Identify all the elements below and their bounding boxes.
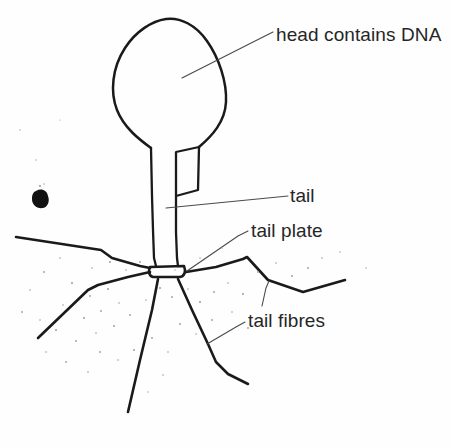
leader-lines: [166, 32, 288, 344]
leader-line-tail-fibres: [207, 322, 245, 344]
label-tail-fibres: tail fibres: [248, 311, 325, 330]
figure-canvas: head contains DNA tail tail plate tail f…: [0, 0, 453, 448]
label-tail-plate: tail plate: [251, 221, 323, 240]
label-tail: tail: [290, 186, 315, 205]
leader-line-tail: [166, 196, 288, 208]
label-head-contains-dna: head contains DNA: [276, 25, 441, 44]
leader-line-tail-plate: [187, 231, 248, 271]
ink-blot-artifact: [32, 183, 49, 208]
leader-line-tail-fibres-upper: [262, 281, 269, 306]
stipple-texture: [19, 119, 366, 392]
phage-head: [113, 19, 226, 148]
phage-tail-plate: [149, 266, 185, 277]
phage-tail-tube: [151, 147, 199, 266]
leader-line-head: [182, 32, 273, 78]
bacteriophage-illustration: [0, 0, 453, 448]
